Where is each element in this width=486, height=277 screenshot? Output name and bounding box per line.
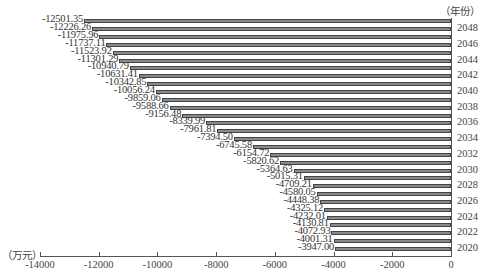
bar-2039	[162, 98, 451, 102]
y-tick-label: 2020	[457, 242, 478, 253]
y-tick-label: 2022	[457, 226, 478, 237]
y-axis-line	[451, 18, 452, 257]
y-tick-label: 2040	[457, 85, 478, 96]
bar-2027	[317, 192, 451, 196]
y-tick-label: 2028	[457, 179, 478, 190]
x-tick-mark	[157, 252, 158, 256]
bar-2024	[327, 216, 451, 220]
y-tick-label: 2048	[457, 22, 478, 33]
y-tick-label: 2030	[457, 164, 478, 175]
bar-2021	[334, 239, 451, 243]
bar-2025	[324, 208, 451, 212]
y-tick-label: 2046	[457, 38, 478, 49]
bar-2020	[335, 247, 451, 251]
y-tick-label: 2038	[457, 101, 478, 112]
x-tick-label: 0	[448, 259, 453, 270]
y-tick-label: 2036	[457, 116, 478, 127]
x-tick-mark	[392, 252, 393, 256]
bar-2037	[182, 114, 451, 118]
x-tick-label: -8000	[204, 259, 229, 270]
x-tick-label: -12000	[84, 259, 114, 270]
bar-2023	[330, 223, 451, 227]
y-tick-label: 2032	[457, 148, 478, 159]
bar-2046	[106, 43, 451, 47]
bar-2022	[331, 231, 451, 235]
bar-2044	[119, 59, 451, 63]
x-tick-label: -6000	[263, 259, 288, 270]
bar-2026	[320, 200, 451, 204]
y-axis-unit-label: （年份）	[440, 3, 480, 18]
bar-2029	[304, 176, 451, 180]
bar-2036	[206, 121, 451, 125]
x-tick-mark	[99, 252, 100, 256]
x-axis-line	[40, 256, 452, 257]
x-tick-mark	[216, 252, 217, 256]
bar-2028	[313, 184, 451, 188]
y-tick-label: 2024	[457, 211, 478, 222]
bar-2032	[270, 153, 451, 157]
x-tick-mark	[275, 252, 276, 256]
y-tick-label: 2026	[457, 195, 478, 206]
y-tick-label: 2042	[457, 69, 478, 80]
bar-chart: （万元） （年份） -3947.00-4001.31-4072.93-4130.…	[0, 0, 486, 277]
bar-2042	[139, 74, 451, 78]
x-tick-mark	[451, 252, 452, 256]
y-tick-label: 2044	[457, 54, 478, 65]
x-tick-label: -2000	[380, 259, 405, 270]
bar-2033	[253, 145, 451, 149]
x-tick-mark	[40, 252, 41, 256]
bar-2045	[113, 51, 451, 55]
bar-2048	[92, 27, 451, 31]
bar-2030	[294, 169, 451, 173]
bar-2031	[280, 161, 451, 165]
bar-2047	[99, 35, 451, 39]
bar-2043	[130, 66, 451, 70]
bar-2049	[84, 19, 451, 23]
bar-2038	[170, 106, 451, 110]
y-tick-label: 2034	[457, 132, 478, 143]
bar-2040	[156, 90, 451, 94]
x-tick-label: -14000	[25, 259, 55, 270]
bar-2041	[147, 82, 451, 86]
x-tick-label: -4000	[321, 259, 346, 270]
value-label-2049: -12501.35	[42, 14, 83, 24]
bar-2034	[234, 137, 451, 141]
x-tick-label: -10000	[143, 259, 173, 270]
x-tick-mark	[334, 252, 335, 256]
bar-2035	[217, 129, 451, 133]
